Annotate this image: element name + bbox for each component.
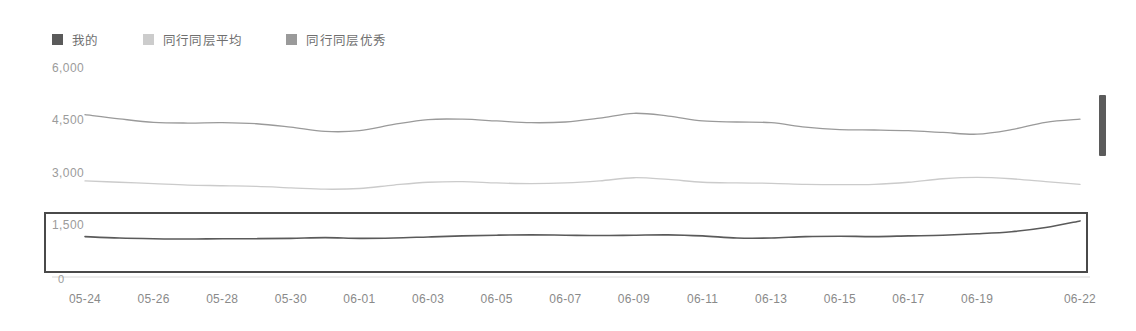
vertical-scroll-handle[interactable] bbox=[1099, 95, 1106, 156]
line-chart-panel: 我的 同行同层平均 同行同层优秀 01,5003,0004,5006,000 0… bbox=[0, 0, 1136, 331]
series-highlight-box[interactable] bbox=[44, 212, 1088, 273]
series-line-peer-excellent bbox=[85, 113, 1080, 134]
series-line-peer-average bbox=[85, 177, 1080, 189]
plot-area bbox=[0, 0, 1136, 331]
